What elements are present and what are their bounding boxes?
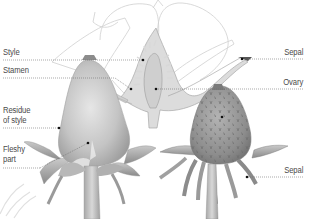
label-stamen: Stamen bbox=[3, 66, 29, 76]
sepal-bottom-dot bbox=[246, 176, 249, 179]
sepal-top-dot bbox=[241, 58, 244, 61]
label-sepal-bottom: Sepal bbox=[284, 166, 303, 176]
stamen-dot bbox=[130, 88, 133, 91]
label-residue-of-style: Residue of style bbox=[3, 106, 30, 125]
style-dot bbox=[142, 59, 145, 62]
ripe-seed-dot bbox=[221, 116, 224, 119]
ovary-dot bbox=[155, 88, 158, 91]
label-style: Style bbox=[3, 48, 20, 58]
residue-dot bbox=[58, 127, 61, 130]
label-sepal-top: Sepal bbox=[284, 48, 303, 58]
faint-leaves bbox=[0, 184, 36, 218]
strawberry-anatomy-diagram: Style Stamen Residue of style Fleshy par… bbox=[0, 0, 312, 219]
fleshy-dot bbox=[87, 142, 90, 145]
diagram-illustration bbox=[0, 0, 312, 219]
label-ovary: Ovary bbox=[283, 78, 303, 88]
label-fleshy-part: Fleshy part bbox=[3, 145, 25, 164]
